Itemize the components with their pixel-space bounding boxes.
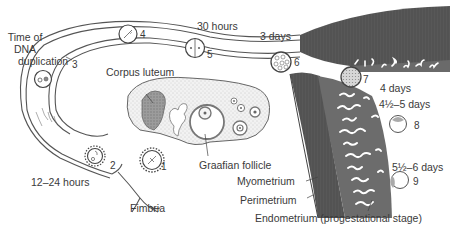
stage-5-two-cell [186, 39, 205, 58]
stage-number-3: 3 [72, 59, 78, 70]
stage-number-9: 9 [413, 176, 419, 187]
stage-6-morula [271, 52, 291, 72]
ovary [127, 77, 269, 144]
stage-4-cleavage [119, 25, 137, 43]
stage-number-4: 4 [140, 29, 146, 40]
stage-number-8: 8 [414, 120, 420, 131]
label-graafian-follicle: Graafian follicle [199, 159, 271, 171]
stage-3-pronuclei [35, 71, 52, 88]
label-time-of-dna-1: Time of [0, 31, 50, 43]
stage-number-6: 6 [294, 57, 300, 68]
label-fimbria: Fimbria [130, 202, 165, 214]
uterus-lower-wall [290, 72, 392, 218]
label-corpus-luteum: Corpus luteum [106, 66, 174, 78]
stage-9-implanting [390, 172, 408, 189]
label-time-of-dna-2: DNA [0, 43, 50, 55]
cilia [36, 108, 57, 126]
label-4-5-days: 4½–5 days [379, 98, 430, 110]
label-perimetrium: Perimetrium [240, 194, 297, 206]
stage-number-2: 2 [110, 160, 116, 171]
label-30-hours: 30 hours [197, 20, 238, 32]
stage-7-late-morula [341, 67, 361, 87]
label-myometrium: Myometrium [237, 175, 295, 187]
label-5-6-days: 5½–6 days [392, 161, 443, 173]
stage-number-1: 1 [161, 161, 167, 172]
diagram-canvas [0, 0, 461, 230]
label-4-days: 4 days [380, 82, 411, 94]
label-endometrium: Endometrium (progestational stage) [255, 212, 422, 224]
label-3-days: 3 days [260, 30, 291, 42]
label-12-24-hours: 12–24 hours [31, 176, 89, 188]
stage-2-fertilization [85, 146, 105, 166]
stage-8-blastocyst [390, 116, 407, 133]
stage-number-7: 7 [363, 74, 369, 85]
stage-number-5: 5 [207, 49, 213, 60]
label-time-of-dna-3: duplication [18, 55, 68, 67]
uterus-upper-wall [300, 6, 450, 72]
